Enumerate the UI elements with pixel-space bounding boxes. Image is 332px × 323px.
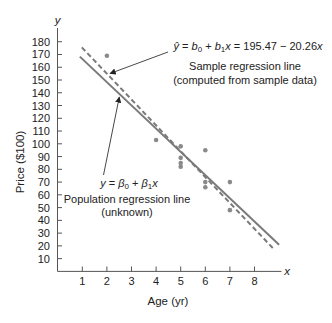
y-tick-label: 80: [38, 163, 50, 175]
x-tick-label: 5: [178, 275, 184, 287]
data-point: [178, 164, 183, 169]
sample-regression-sublabel: (computed from sample data): [173, 74, 317, 86]
y-tick-label: 170: [32, 48, 50, 60]
y-tick-label: 50: [38, 202, 50, 214]
y-tick-label: 130: [32, 100, 50, 112]
x-tick-label: 3: [128, 275, 134, 287]
sample-regression-label: Sample regression line: [189, 60, 301, 72]
population-regression-equation: y = β0 + β1x: [99, 177, 158, 191]
data-point: [178, 144, 183, 149]
y-tick-label: 10: [38, 253, 50, 265]
y-tick-label: 110: [32, 125, 50, 137]
y-tick-label: 160: [32, 61, 50, 73]
sample-line-arrow: [110, 52, 168, 74]
x-axis-title: Age (yr): [148, 295, 189, 307]
y-tick-label: 20: [38, 240, 50, 252]
x-tick-label: 7: [227, 275, 233, 287]
population-regression-sublabel: (unknown): [101, 206, 152, 218]
regression-chart: 1020304050607080901001101201301401501601…: [0, 0, 332, 323]
y-axis-title: Price ($100): [14, 131, 26, 194]
data-point: [228, 208, 233, 213]
data-point: [178, 156, 183, 161]
y-tick-label: 150: [32, 74, 50, 86]
y-tick-label: 70: [38, 176, 50, 188]
y-tick-label: 140: [32, 87, 50, 99]
y-axis-symbol: y: [54, 14, 62, 26]
x-tick-label: 2: [104, 275, 110, 287]
data-point: [228, 180, 233, 185]
y-tick-label: 100: [32, 138, 50, 150]
x-tick-label: 6: [202, 275, 208, 287]
population-regression-label: Population regression line: [64, 193, 191, 205]
y-tick-label: 180: [32, 36, 50, 48]
y-tick-label: 40: [38, 214, 50, 226]
data-point: [105, 53, 110, 58]
x-axis-symbol: x: [283, 265, 291, 277]
data-point: [203, 185, 208, 190]
x-tick-label: 1: [79, 275, 85, 287]
data-point: [154, 138, 159, 143]
sample-regression-annotation: ŷ = b0 + b1x = 195.47 − 20.26x Sample re…: [173, 40, 324, 86]
y-tick-label: 30: [38, 227, 50, 239]
data-point: [203, 148, 208, 153]
data-point: [203, 180, 208, 185]
x-tick-label: 8: [251, 275, 257, 287]
y-tick-label: 120: [32, 112, 50, 124]
population-line-arrow: [104, 97, 120, 175]
x-axis-ticks: 12345678: [79, 267, 257, 287]
y-tick-label: 60: [38, 189, 50, 201]
population-regression-annotation: y = β0 + β1x Population regression line …: [64, 177, 191, 218]
y-tick-label: 90: [38, 151, 50, 163]
sample-regression-equation: ŷ = b0 + b1x = 195.47 − 20.26x: [173, 40, 324, 54]
x-tick-label: 4: [153, 275, 159, 287]
